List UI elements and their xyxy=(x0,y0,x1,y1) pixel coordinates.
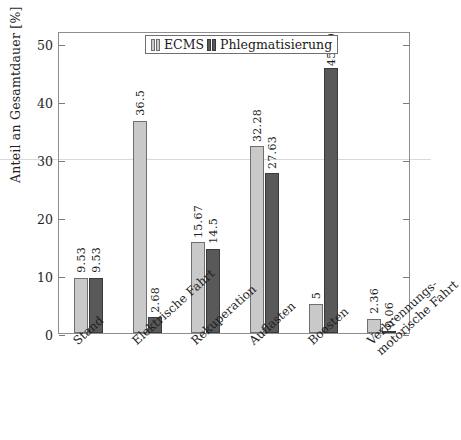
y-axis-tick-right xyxy=(403,103,409,104)
y-axis-title: Anteil an Gesamtdauer [%] xyxy=(8,6,23,183)
legend-entry-phlegmatisierung: Phlegmatisierung xyxy=(207,37,332,52)
y-axis-tick xyxy=(59,45,65,46)
legend-label-ecms: ECMS xyxy=(162,37,204,52)
bar-phlegmatisierung xyxy=(324,68,338,333)
bar-value-label: 2.36 xyxy=(368,288,381,314)
chart-legend: ECMS Phlegmatisierung xyxy=(145,35,338,54)
y-axis-tick-right xyxy=(403,45,409,46)
y-axis-tick-label: 40 xyxy=(37,95,53,110)
bar-value-label: 15.67 xyxy=(192,205,205,238)
bar-value-label: 32.28 xyxy=(251,109,264,142)
bar-value-label: 9.53 xyxy=(75,247,88,273)
y-axis-tick-label: 0 xyxy=(45,328,53,343)
legend-swatch-ecms-icon xyxy=(151,39,160,51)
bar-ecms xyxy=(250,146,264,333)
y-axis-tick xyxy=(59,161,65,162)
y-axis-tick xyxy=(59,277,65,278)
bar-value-label: 5 xyxy=(310,292,323,299)
y-axis-tick-right xyxy=(403,219,409,220)
bar-value-label: 27.63 xyxy=(266,136,279,169)
y-axis-tick-label: 50 xyxy=(37,37,53,52)
legend-entry-ecms: ECMS xyxy=(151,37,204,52)
plot-inner: 010203040509.539.5336.52.6815.6714.532.2… xyxy=(59,33,409,333)
y-axis-tick xyxy=(59,335,65,336)
bar-value-label: 14.5 xyxy=(207,218,220,244)
y-axis-tick-label: 20 xyxy=(37,211,53,226)
y-axis-tick-right xyxy=(403,277,409,278)
legend-label-phlegmatisierung: Phlegmatisierung xyxy=(218,37,332,52)
y-axis-tick-label: 30 xyxy=(37,153,53,168)
y-axis-tick-label: 10 xyxy=(37,269,53,284)
bar-value-label: 9.53 xyxy=(90,247,103,273)
bar-ecms xyxy=(133,121,147,333)
y-axis-tick xyxy=(59,103,65,104)
plot-area: 010203040509.539.5336.52.6815.6714.532.2… xyxy=(58,32,410,334)
y-axis-tick xyxy=(59,219,65,220)
bar-value-label: 36.5 xyxy=(134,90,147,116)
legend-swatch-phlegmatisierung-icon xyxy=(207,39,216,51)
y-axis-tick-right xyxy=(403,161,409,162)
